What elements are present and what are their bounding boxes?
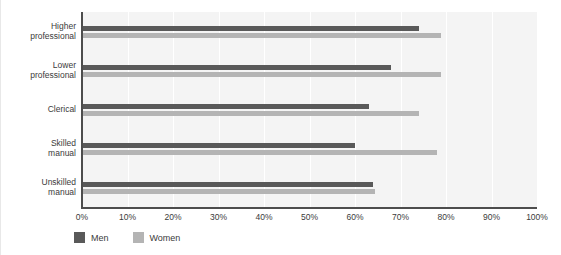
grid-line: [537, 12, 538, 208]
x-axis-tick-label: 90%: [483, 212, 500, 222]
bar-men-3: [82, 143, 355, 148]
bar-men-4: [82, 182, 373, 187]
y-axis-label: Higherprofessional: [2, 21, 76, 41]
y-axis-label-line: manual: [2, 148, 76, 158]
y-axis-label-line: Lower: [2, 60, 76, 70]
bar-men-0: [82, 26, 419, 31]
y-axis-line: [81, 12, 83, 208]
x-axis-tick-label: 10%: [119, 212, 136, 222]
bar-women-4: [82, 189, 375, 194]
y-axis-label-line: professional: [2, 31, 76, 41]
legend-swatch-icon: [74, 232, 85, 243]
legend-item-women[interactable]: Women: [133, 232, 181, 243]
y-axis-label-line: Unskilled: [2, 177, 76, 187]
x-axis-tick-label: 50%: [301, 212, 318, 222]
x-axis-tick-label: 40%: [255, 212, 272, 222]
bar-women-2: [82, 111, 419, 116]
x-axis-tick-label: 20%: [164, 212, 181, 222]
bar-chart: HigherprofessionalLowerprofessionalCleri…: [0, 0, 561, 255]
y-axis-label-line: professional: [2, 70, 76, 80]
x-axis-tick-label: 70%: [392, 212, 409, 222]
bars-layer: [82, 12, 537, 208]
y-axis-category-labels: HigherprofessionalLowerprofessionalCleri…: [0, 12, 76, 208]
y-axis-label: Clerical: [2, 104, 76, 114]
x-axis-tick-label: 30%: [210, 212, 227, 222]
bar-men-1: [82, 65, 391, 70]
y-axis-label-line: Higher: [2, 21, 76, 31]
y-axis-label-line: Clerical: [2, 104, 76, 114]
x-axis-tick-label: 100%: [526, 212, 548, 222]
y-axis-label-line: Skilled: [2, 138, 76, 148]
legend: MenWomen: [74, 232, 180, 243]
x-axis-tick-label: 80%: [437, 212, 454, 222]
legend-label: Men: [91, 233, 109, 243]
x-axis-line: [81, 207, 537, 209]
bar-men-2: [82, 104, 369, 109]
y-axis-label-line: manual: [2, 187, 76, 197]
y-axis-label: Skilledmanual: [2, 138, 76, 158]
y-axis-label: Unskilledmanual: [2, 177, 76, 197]
bar-women-1: [82, 72, 441, 77]
bar-women-3: [82, 150, 437, 155]
legend-swatch-icon: [133, 232, 144, 243]
legend-label: Women: [150, 233, 181, 243]
legend-item-men[interactable]: Men: [74, 232, 109, 243]
x-axis-tick-label: 0%: [76, 212, 88, 222]
x-axis-tick-label: 60%: [346, 212, 363, 222]
y-axis-label: Lowerprofessional: [2, 60, 76, 80]
bar-women-0: [82, 33, 441, 38]
